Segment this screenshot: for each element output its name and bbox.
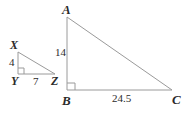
- side-label-xy: 4: [9, 56, 15, 68]
- vertex-label-a: A: [61, 2, 71, 17]
- vertex-label-y: Y: [11, 74, 20, 88]
- side-label-ab: 14: [55, 46, 67, 58]
- right-angle-mark-b: [67, 83, 75, 90]
- vertex-label-z: Z: [50, 74, 59, 88]
- triangle-xyz: [18, 52, 55, 74]
- right-angle-mark-y: [18, 68, 24, 74]
- segment-ac: [67, 17, 172, 90]
- vertex-label-b: B: [61, 93, 71, 108]
- vertex-label-x: X: [9, 38, 19, 52]
- triangle-abc: [67, 17, 172, 90]
- side-label-yz: 7: [33, 75, 39, 87]
- geometry-diagram: X Y Z 4 7 A B C 14 24.5: [0, 0, 186, 115]
- diagram-canvas: X Y Z 4 7 A B C 14 24.5: [0, 0, 186, 115]
- side-label-bc: 24.5: [112, 92, 132, 104]
- vertex-label-c: C: [172, 92, 181, 107]
